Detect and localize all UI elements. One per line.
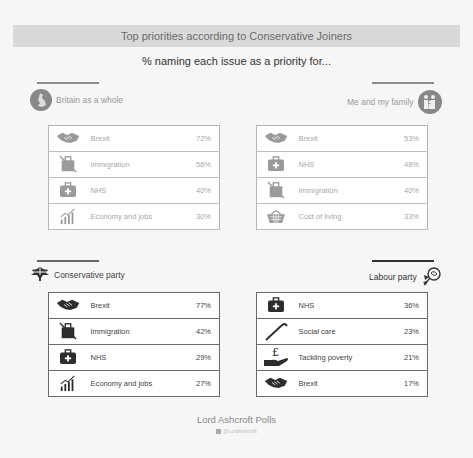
issue-label: Immigration <box>87 319 170 345</box>
britain-map-icon <box>30 89 52 111</box>
medical-kit-icon <box>59 349 77 367</box>
immigration-icon <box>59 155 77 175</box>
section-heading-label: Me and my family <box>347 97 414 107</box>
table-row: Immigration 40% <box>257 178 428 204</box>
issue-label: Brexit <box>295 371 378 397</box>
issue-percent: 23% <box>378 319 428 345</box>
footer-brand: Lord Ashcroft Polls <box>0 414 473 425</box>
handshake-icon <box>56 131 80 146</box>
labour-rose-icon <box>421 265 443 289</box>
handshake-icon <box>56 298 80 313</box>
issue-label: Brexit <box>295 126 378 152</box>
twitter-icon <box>216 429 221 434</box>
title-bar: Top priorities according to Conservative… <box>13 25 460 47</box>
handshake-icon <box>264 131 288 146</box>
twitter-handle: @LordAshcroft <box>223 428 256 434</box>
issue-label: Brexit <box>87 293 170 319</box>
handshake-icon <box>264 376 288 391</box>
priority-table-family: Brexit 53% NHS 48% Immigration 40% Cost … <box>256 125 428 230</box>
issue-percent: 77% <box>170 293 220 319</box>
page-title: Top priorities according to Conservative… <box>121 30 352 42</box>
section-heading-family: Me and my family <box>347 90 442 114</box>
footer-handle: @LordAshcroft <box>0 428 473 434</box>
shopping-basket-icon <box>266 208 286 226</box>
section-rule <box>37 82 99 84</box>
walking-cane-icon <box>264 321 288 343</box>
issue-percent: 21% <box>378 345 428 371</box>
priority-table-labour: NHS 36% Social care 23% Tackling poverty… <box>256 292 428 397</box>
issue-label: NHS <box>87 178 170 204</box>
issue-percent: 30% <box>170 204 220 230</box>
section-rule <box>372 82 434 84</box>
economy-chart-icon <box>59 374 77 394</box>
priority-table-conservative: Brexit 77% Immigration 42% NHS 29% Econo… <box>48 292 220 397</box>
issue-percent: 33% <box>378 204 428 230</box>
issue-percent: 40% <box>378 178 428 204</box>
section-rule <box>37 260 99 262</box>
family-icon <box>418 90 442 114</box>
table-row: Social care 23% <box>257 319 428 345</box>
issue-percent: 27% <box>170 371 220 397</box>
issue-label: Immigration <box>87 152 170 178</box>
medical-kit-icon <box>59 182 77 200</box>
table-row: Immigration 56% <box>49 152 220 178</box>
issue-label: Economy and jobs <box>87 371 170 397</box>
issue-label: Economy and jobs <box>87 204 170 230</box>
issue-percent: 17% <box>378 371 428 397</box>
priority-table-britain: Brexit 72% Immigration 56% NHS 40% Econo… <box>48 125 220 230</box>
issue-percent: 36% <box>378 293 428 319</box>
table-row: Immigration 42% <box>49 319 220 345</box>
immigration-icon <box>59 322 77 342</box>
issue-percent: 56% <box>170 152 220 178</box>
pound-hand-icon <box>263 346 289 370</box>
section-heading-labour: Labour party <box>369 265 443 289</box>
section-heading-britain: Britain as a whole <box>30 89 123 111</box>
issue-label: Brexit <box>87 126 170 152</box>
issue-label: NHS <box>295 293 378 319</box>
table-row: Economy and jobs 30% <box>49 204 220 230</box>
immigration-icon <box>267 181 285 201</box>
section-heading-label: Labour party <box>369 272 417 282</box>
issue-label: NHS <box>87 345 170 371</box>
table-row: Cost of living 33% <box>257 204 428 230</box>
issue-label: Social care <box>295 319 378 345</box>
table-row: Tackling poverty 21% <box>257 345 428 371</box>
issue-percent: 29% <box>170 345 220 371</box>
table-row: Brexit 17% <box>257 371 428 397</box>
issue-percent: 72% <box>170 126 220 152</box>
table-row: Brexit 77% <box>49 293 220 319</box>
issue-percent: 48% <box>378 152 428 178</box>
section-rule <box>372 260 434 262</box>
table-row: Brexit 72% <box>49 126 220 152</box>
table-row: Economy and jobs 27% <box>49 371 220 397</box>
issue-percent: 42% <box>170 319 220 345</box>
table-row: NHS 29% <box>49 345 220 371</box>
issue-percent: 40% <box>170 178 220 204</box>
economy-chart-icon <box>59 207 77 227</box>
table-row: NHS 36% <box>257 293 428 319</box>
table-row: NHS 48% <box>257 152 428 178</box>
section-heading-label: Conservative party <box>54 270 125 280</box>
table-row: NHS 40% <box>49 178 220 204</box>
medical-kit-icon <box>267 156 285 174</box>
section-heading-conservative: Conservative party <box>30 266 125 284</box>
issue-label: Tackling poverty <box>295 345 378 371</box>
section-heading-label: Britain as a whole <box>56 95 123 105</box>
issue-label: Immigration <box>295 178 378 204</box>
page-subtitle: % naming each issue as a priority for... <box>0 55 473 67</box>
issue-percent: 53% <box>378 126 428 152</box>
issue-label: Cost of living <box>295 204 378 230</box>
issue-label: NHS <box>295 152 378 178</box>
conservative-tree-icon <box>30 266 50 284</box>
table-row: Brexit 53% <box>257 126 428 152</box>
medical-kit-icon <box>267 297 285 315</box>
